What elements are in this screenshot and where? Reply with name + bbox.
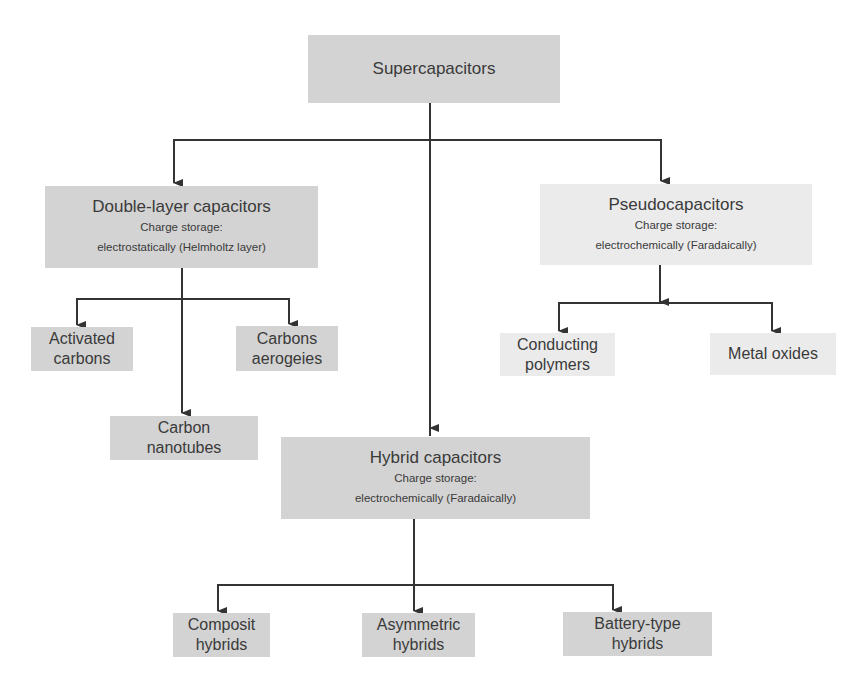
node-storage-label: Charge storage: — [140, 217, 222, 237]
node-carbon-nanotubes: Carbon nanotubes — [110, 416, 258, 460]
node-title: Pseudocapacitors — [608, 195, 743, 215]
node-label-line2: hybrids — [393, 635, 445, 655]
node-storage-mode: electrochemically (Faradaically) — [595, 235, 756, 255]
node-label-line1: Conducting — [517, 335, 598, 355]
node-label-line1: Composit — [188, 615, 256, 635]
node-label-line2: hybrids — [196, 635, 248, 655]
node-carbons-aerogeies: Carbons aerogeies — [236, 326, 338, 371]
node-storage-mode: electrostatically (Helmholtz layer) — [97, 237, 266, 257]
node-asymmetric-hybrids: Asymmetric hybrids — [362, 613, 475, 657]
node-storage-label: Charge storage: — [635, 215, 717, 235]
node-label-line2: polymers — [525, 355, 590, 375]
node-hybrid-capacitors: Hybrid capacitors Charge storage: electr… — [281, 437, 590, 519]
node-label-line1: Activated — [49, 329, 115, 349]
node-label-line1: Metal oxides — [728, 344, 818, 364]
node-label-line2: hybrids — [612, 634, 664, 654]
node-activated-carbons: Activated carbons — [31, 327, 133, 371]
node-double-layer-capacitors: Double-layer capacitors Charge storage: … — [45, 186, 318, 268]
node-label-line1: Battery-type — [594, 614, 680, 634]
node-pseudocapacitors: Pseudocapacitors Charge storage: electro… — [540, 184, 812, 265]
node-label-line1: Asymmetric — [377, 615, 461, 635]
node-label-line2: aerogeies — [252, 349, 322, 369]
node-storage-mode: electrochemically (Faradaically) — [355, 488, 516, 508]
node-label-line1: Carbons — [257, 329, 317, 349]
node-metal-oxides: Metal oxides — [710, 333, 836, 375]
node-title: Supercapacitors — [373, 59, 496, 79]
node-title: Double-layer capacitors — [92, 197, 271, 217]
node-label-line1: Carbon — [158, 418, 210, 438]
node-storage-label: Charge storage: — [394, 468, 476, 488]
node-label-line2: carbons — [54, 349, 111, 369]
node-battery-type-hybrids: Battery-type hybrids — [563, 612, 712, 656]
node-conducting-polymers: Conducting polymers — [500, 333, 615, 376]
node-title: Hybrid capacitors — [370, 448, 501, 468]
node-supercapacitors: Supercapacitors — [308, 35, 560, 103]
node-composit-hybrids: Composit hybrids — [173, 613, 270, 657]
node-label-line2: nanotubes — [147, 438, 222, 458]
